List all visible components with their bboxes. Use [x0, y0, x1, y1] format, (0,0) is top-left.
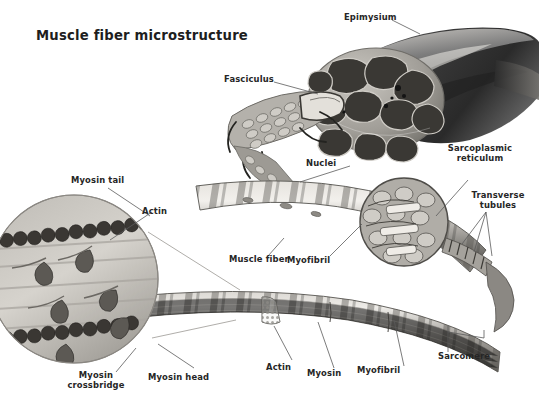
label-transverse-tubules-line2: tubules — [460, 201, 536, 211]
label-myosin-crossbridge-line2: crossbridge — [66, 381, 126, 391]
label-fasciculus: Fasciculus — [224, 75, 274, 85]
label-actin-bottom: Actin — [266, 363, 291, 373]
myofibril-cross-section — [360, 178, 448, 266]
label-sarcomere: Sarcomere — [438, 352, 490, 362]
label-muscle-fiber: Muscle fiber — [229, 255, 289, 265]
label-myosin-head: Myosin head — [148, 373, 209, 383]
page-title: Muscle fiber microstructure — [36, 28, 248, 43]
label-myosin-tail: Myosin tail — [71, 176, 124, 186]
label-epimysium: Epimysium — [344, 13, 397, 23]
label-myofibril-bottom: Myofibril — [357, 366, 400, 376]
illustration-canvas: Muscle fiber microstructure Epimysium Fa… — [0, 0, 539, 414]
label-actin-inset: Actin — [142, 207, 167, 217]
label-myofibril-mid: Myofibril — [287, 256, 330, 266]
label-sarcoplasmic-reticulum-line2: reticulum — [438, 154, 522, 164]
label-myosin-bottom: Myosin — [307, 369, 341, 379]
label-nuclei: Nuclei — [306, 159, 336, 169]
